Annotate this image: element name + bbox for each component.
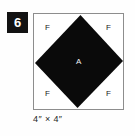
block-size-caption: 4″ × 4″ <box>33 114 124 125</box>
corner-piece-label-bottom-right: F <box>106 90 111 98</box>
corner-piece-label-bottom-left: F <box>45 90 50 98</box>
center-piece-label-a: A <box>76 58 81 66</box>
quilt-block-figure: 6 F F F F A 4″ × 4″ <box>0 0 135 136</box>
corner-piece-label-top-right: F <box>106 24 111 32</box>
block-square-diagram: F F F F A <box>33 13 124 110</box>
block-number-badge: 6 <box>7 12 28 33</box>
corner-piece-label-top-left: F <box>45 24 50 32</box>
